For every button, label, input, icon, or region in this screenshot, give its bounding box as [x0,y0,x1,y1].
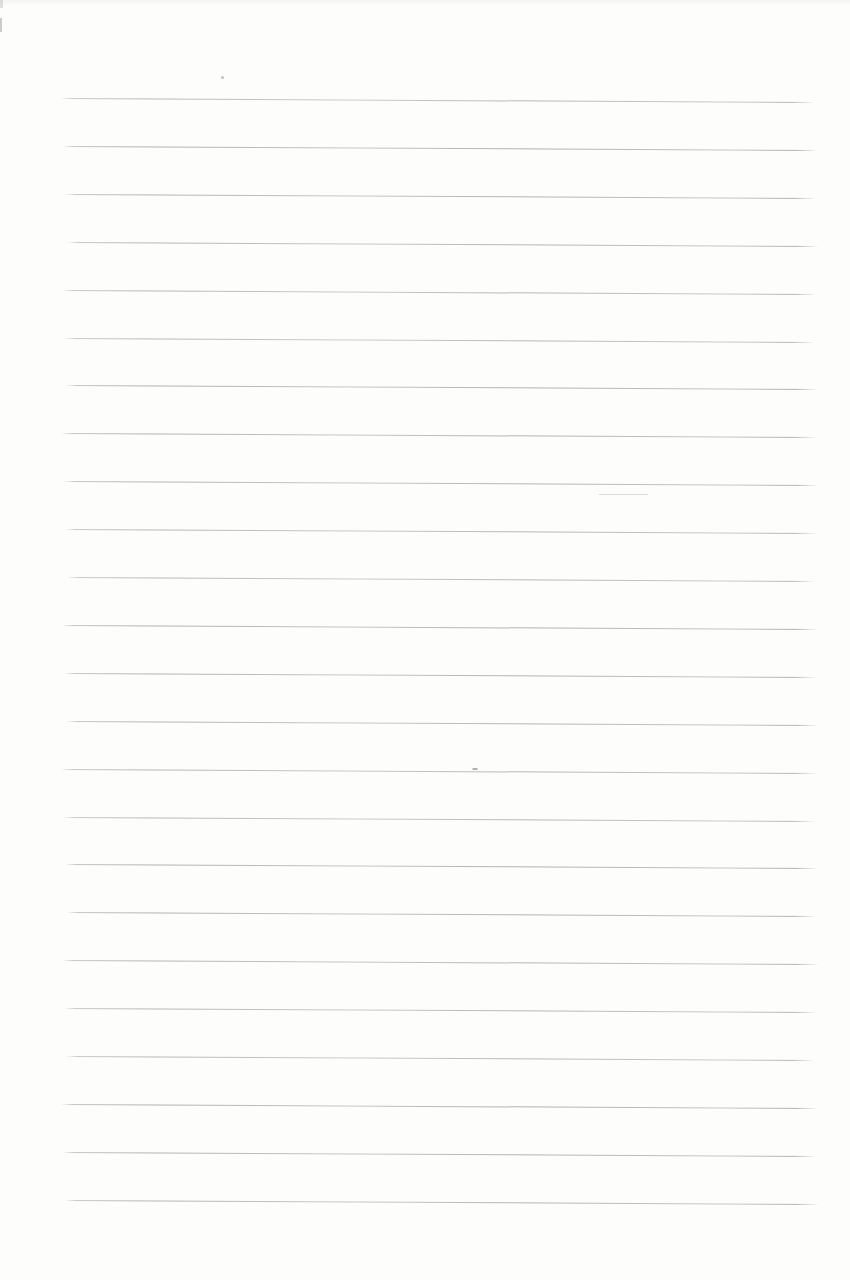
ruled-line [63,481,819,486]
ruled-line [66,385,818,390]
ruled-line [61,98,815,103]
ruled-line [61,1104,818,1109]
ruled-line [63,1152,816,1157]
ruled-line [66,1056,815,1061]
ruled-line [67,577,815,582]
ruled-line [62,960,819,965]
ruled-line [63,146,818,151]
ruled-line [61,433,816,438]
speck-dot-artifact [221,76,224,79]
ruled-line [65,194,816,199]
edge-smudge-artifact [0,18,2,32]
ruled-line [64,1008,817,1013]
ruled-line [65,529,817,534]
ruled-line [63,817,815,822]
ruled-line [65,864,818,869]
ruled-line [64,673,816,678]
ruled-line [62,625,818,630]
ruled-line [62,290,817,295]
edge-smudge-2-artifact [0,0,3,8]
ruled-line [61,769,817,774]
notebook-page [0,0,850,1280]
line-blot-artifact [472,768,478,770]
ruled-line [66,721,819,726]
ghost-dash-artifact [599,494,648,495]
ruled-line [67,912,816,917]
ruled-line [65,1200,819,1205]
ruled-line [67,242,819,247]
ruled-line [64,338,815,343]
